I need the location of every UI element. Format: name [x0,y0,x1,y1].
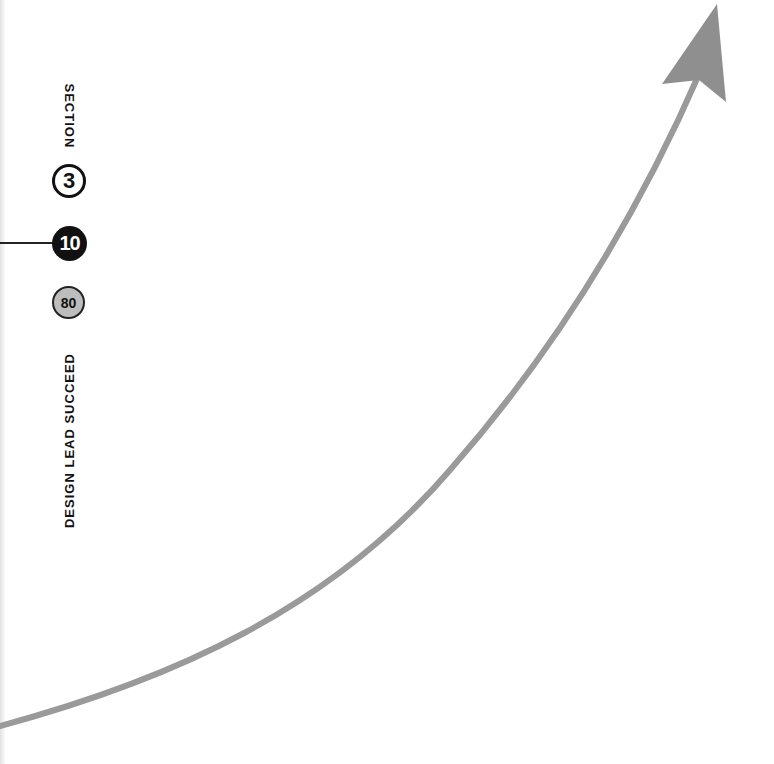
section-label: SECTION [62,84,77,144]
growth-arrow-graphic [0,0,774,764]
section-number-badge: 3 [52,164,86,198]
growth-curve [0,72,700,726]
page-number-badge: 80 [52,286,85,319]
tagline-label: DESIGN LEAD SUCCEED [62,351,77,531]
section-divider-graphic: SECTION 3 10 80 DESIGN LEAD SUCCEED [0,0,774,764]
chapter-number-badge: 10 [52,226,87,261]
